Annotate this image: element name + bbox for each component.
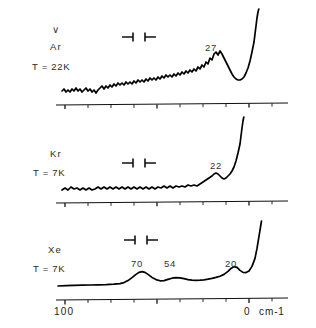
kr-species-label: Kr (50, 148, 62, 159)
ar-species-label: Ar (50, 41, 62, 52)
x-axis-label-100: 100 (54, 306, 74, 317)
xe-peak-label-20: 20 (225, 258, 237, 269)
xe-trace (58, 221, 262, 286)
kr-resolution-bar-icon (120, 157, 160, 169)
ar-plot (0, 0, 316, 118)
kr-axis-line (56, 201, 288, 203)
ar-temperature-label: T = 22K (32, 61, 70, 72)
xe-axis-line (56, 298, 288, 300)
ar-resolution-bar-icon (120, 31, 160, 43)
ar-trace (62, 9, 259, 93)
ar-axis-line (56, 103, 288, 105)
kr-trace (62, 117, 244, 190)
x-axis-unit-label: cm-1 (259, 306, 285, 317)
xe-species-label: Xe (48, 244, 62, 255)
spectra-figure: ∨ Ar T = 22K 27 (0, 0, 316, 328)
panel-ar: ∨ Ar T = 22K 27 (0, 0, 316, 118)
xe-resolution-bar-icon (122, 234, 162, 246)
kr-temperature-label: T = 7K (33, 167, 65, 178)
xe-peak-label-70: 70 (131, 258, 143, 269)
xe-peak-label-54: 54 (164, 258, 176, 269)
kr-peak-label-22: 22 (210, 160, 222, 171)
panel-xe: Xe T = 7K 70 54 20 100 0 cm-1 (0, 212, 316, 328)
x-axis-label-0: 0 (244, 306, 251, 317)
panel-kr: Kr T = 7K 22 (0, 108, 316, 218)
xe-temperature-label: T = 7K (33, 263, 65, 274)
ar-sample-marker-icon: ∨ (52, 24, 60, 35)
ar-peak-label-27: 27 (205, 42, 217, 53)
